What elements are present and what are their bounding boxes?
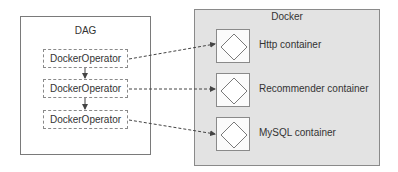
http-arrow	[129, 44, 215, 59]
mysql-arrow	[129, 120, 215, 134]
connector-arrows	[0, 0, 398, 172]
